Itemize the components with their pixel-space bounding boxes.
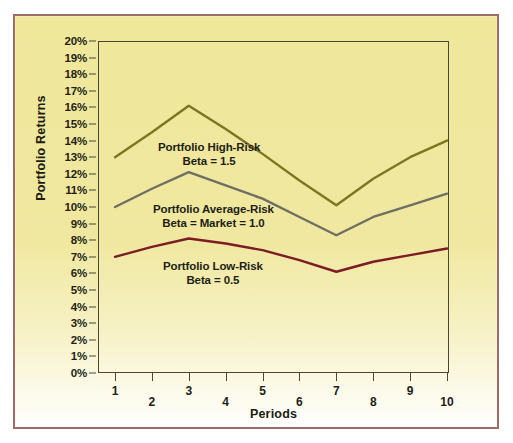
x-tick-label: 9 (407, 384, 414, 398)
y-tick-label: 16% (65, 101, 87, 113)
y-axis: 20%19%18%17%16%15%14%13%12%11%10%9%8%7%6… (15, 41, 98, 373)
y-tick-mark (89, 41, 96, 42)
y-tick-mark (89, 124, 96, 125)
x-tick-label: 1 (112, 384, 119, 398)
y-tick-mark (89, 190, 96, 191)
y-tick-mark (89, 240, 96, 241)
x-tick-mark (189, 373, 190, 381)
y-axis-title: Portfolio Returns (34, 68, 48, 228)
y-tick-label: 15% (65, 118, 87, 130)
low-risk-label-line1: Portfolio Low-Risk (163, 260, 263, 272)
x-tick-mark (373, 373, 374, 381)
y-tick-label: 8% (71, 234, 87, 246)
y-tick-mark (89, 74, 96, 75)
high-risk-label: Portfolio High-RiskBeta = 1.5 (158, 140, 260, 169)
average-risk-label-line1: Portfolio Average-Risk (153, 203, 274, 215)
y-tick-mark (89, 256, 96, 257)
y-tick-mark (89, 306, 96, 307)
y-tick-label: 5% (71, 284, 87, 296)
chart-figure: 20%19%18%17%16%15%14%13%12%11%10%9%8%7%6… (13, 14, 499, 429)
x-tick-mark (263, 373, 264, 381)
high-risk-label-line1: Portfolio High-Risk (158, 141, 260, 153)
x-tick-mark (299, 373, 300, 381)
x-axis-title: Periods (98, 407, 449, 421)
y-tick-mark (89, 356, 96, 357)
y-tick-mark (89, 207, 96, 208)
y-tick-label: 0% (71, 367, 87, 379)
y-tick-label: 7% (71, 251, 87, 263)
x-tick-label: 7 (333, 384, 340, 398)
y-tick-mark (89, 140, 96, 141)
low-risk-label-line2: Beta = 0.5 (163, 273, 263, 287)
y-tick-label: 9% (71, 218, 87, 230)
x-tick-mark (152, 373, 153, 381)
average-risk-label: Portfolio Average-RiskBeta = Market = 1.… (153, 202, 274, 231)
y-tick-label: 12% (65, 168, 87, 180)
high-risk-label-line2: Beta = 1.5 (158, 154, 260, 168)
y-tick-label: 14% (65, 135, 87, 147)
y-tick-label: 13% (65, 151, 87, 163)
y-tick-mark (89, 57, 96, 58)
x-tick-mark (410, 373, 411, 381)
y-tick-mark (89, 290, 96, 291)
y-tick-label: 19% (65, 52, 87, 64)
average-risk-label-line2: Beta = Market = 1.0 (153, 216, 274, 230)
y-tick-label: 20% (65, 35, 87, 47)
y-tick-label: 11% (65, 184, 87, 196)
y-tick-mark (89, 339, 96, 340)
y-tick-mark (89, 90, 96, 91)
y-tick-label: 18% (65, 68, 87, 80)
x-tick-mark (336, 373, 337, 381)
y-tick-mark (89, 323, 96, 324)
y-tick-label: 4% (71, 301, 87, 313)
y-tick-mark (89, 173, 96, 174)
y-tick-label: 10% (65, 201, 87, 213)
y-tick-label: 17% (65, 85, 87, 97)
low-risk-label: Portfolio Low-RiskBeta = 0.5 (163, 259, 263, 288)
y-tick-mark (89, 157, 96, 158)
y-tick-mark (89, 107, 96, 108)
y-tick-mark (89, 223, 96, 224)
y-tick-label: 1% (71, 350, 87, 362)
x-tick-mark (115, 373, 116, 381)
x-tick-label: 3 (185, 384, 192, 398)
y-tick-label: 2% (71, 334, 87, 346)
y-tick-mark (89, 273, 96, 274)
x-tick-mark (447, 373, 448, 381)
y-tick-mark (89, 373, 96, 374)
y-tick-label: 3% (71, 317, 87, 329)
x-tick-mark (226, 373, 227, 381)
y-tick-label: 6% (71, 267, 87, 279)
x-tick-label: 5 (259, 384, 266, 398)
